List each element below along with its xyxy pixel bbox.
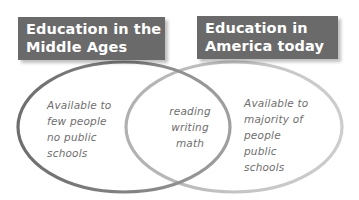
right-item-3: people [244, 127, 308, 143]
left-item-3: no public [47, 129, 111, 145]
right-title-line-1: Education in [205, 19, 331, 37]
left-title-line-2: Middle Ages [26, 38, 158, 56]
intersection-region: reading writing math [160, 103, 220, 151]
left-title-line-1: Education in the [26, 20, 158, 38]
intersection-item-1: reading [160, 103, 220, 119]
right-item-2: majority of [244, 111, 308, 127]
right-set-ellipse [126, 62, 342, 192]
right-item-4: public [244, 143, 308, 159]
right-item-1: Available to [244, 95, 308, 111]
left-item-2: few people [47, 113, 111, 129]
left-item-1: Available to [47, 97, 111, 113]
intersection-item-2: writing [160, 119, 220, 135]
right-set-title: Education in America today [197, 16, 338, 59]
left-set-title: Education in the Middle Ages [18, 17, 165, 60]
right-title-line-2: America today [205, 37, 331, 55]
right-item-5: schools [244, 159, 308, 175]
intersection-item-3: math [160, 135, 220, 151]
left-only-region: Available to few people no public school… [47, 97, 111, 161]
left-item-4: schools [47, 145, 111, 161]
right-only-region: Available to majority of people public s… [244, 95, 308, 175]
